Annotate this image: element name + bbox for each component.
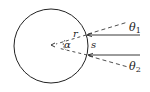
upper-radius-dashed (56, 35, 86, 44)
label-theta1: θ1 (129, 21, 141, 35)
label-alpha: α (64, 39, 71, 50)
lower-radius-dashed (58, 48, 87, 55)
label-theta2: θ2 (129, 60, 141, 74)
upper-dashed-line (88, 22, 128, 34)
label-s: s (91, 39, 96, 50)
lower-dashed-line (89, 56, 128, 67)
diagram-canvas: r α s θ1 θ2 (0, 0, 150, 92)
center-arrow-icon (51, 43, 55, 47)
circle (14, 9, 88, 83)
